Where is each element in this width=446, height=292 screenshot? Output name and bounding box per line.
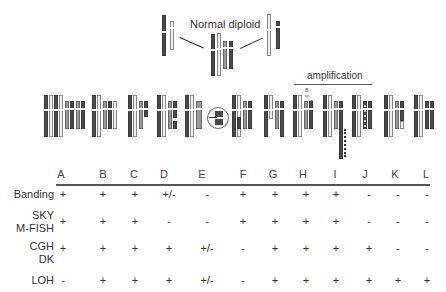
cell: + bbox=[231, 188, 255, 200]
cell: + bbox=[157, 274, 181, 286]
diagram-title: Normal diploid bbox=[190, 18, 260, 30]
cell: + bbox=[294, 215, 318, 227]
column-header-a: A bbox=[51, 168, 71, 180]
cell: - bbox=[51, 274, 75, 286]
column-header-i: I bbox=[325, 168, 345, 180]
header-rule bbox=[56, 184, 430, 186]
cell: +/- bbox=[157, 188, 181, 200]
cell: + bbox=[294, 188, 318, 200]
cell: +/- bbox=[195, 274, 219, 286]
cell: + bbox=[324, 188, 348, 200]
cell: - bbox=[195, 188, 219, 200]
cell: - bbox=[415, 215, 439, 227]
cell: + bbox=[123, 188, 147, 200]
column-header-e: E bbox=[192, 168, 212, 180]
cell: + bbox=[263, 274, 287, 286]
parental-chromosome-left-dark bbox=[162, 15, 166, 56]
cell: + bbox=[263, 188, 287, 200]
diploid-chromosome-4 bbox=[229, 41, 233, 69]
amplification-bracket bbox=[294, 84, 372, 85]
double-minutes-icon: 8 ∞ 8 bbox=[305, 87, 313, 105]
cell: - bbox=[386, 188, 410, 200]
column-header-f: F bbox=[233, 168, 253, 180]
cell: + bbox=[294, 274, 318, 286]
column-header-h: H bbox=[293, 168, 313, 180]
cell: - bbox=[231, 242, 255, 254]
cell: + bbox=[324, 215, 348, 227]
parental-chromosome-right-dark bbox=[276, 21, 280, 49]
column-header-l: L bbox=[416, 168, 436, 180]
hsr-marks bbox=[344, 129, 347, 157]
arrow-left-icon bbox=[180, 37, 204, 48]
row-label-sky-mfish: SKY M-FISH bbox=[16, 209, 54, 235]
cell: - bbox=[231, 274, 255, 286]
cell: - bbox=[357, 188, 381, 200]
cell: + bbox=[294, 242, 318, 254]
cell: + bbox=[51, 242, 75, 254]
cell: + bbox=[123, 242, 147, 254]
cell: +/- bbox=[195, 242, 219, 254]
diploid-chromosome-2 bbox=[217, 33, 221, 76]
cell: - bbox=[386, 215, 410, 227]
cell: - bbox=[357, 215, 381, 227]
cell: - bbox=[157, 215, 181, 227]
parental-chromosome-right-light bbox=[267, 14, 271, 56]
cell: + bbox=[263, 242, 287, 254]
column-header-g: G bbox=[263, 168, 283, 180]
cell: + bbox=[324, 274, 348, 286]
cell: + bbox=[357, 274, 381, 286]
cell: + bbox=[357, 242, 381, 254]
arrow-right-icon bbox=[240, 37, 263, 48]
cell: + bbox=[91, 215, 115, 227]
cell: + bbox=[123, 274, 147, 286]
cell: + bbox=[91, 242, 115, 254]
diploid-chromosome-3 bbox=[223, 41, 227, 69]
column-header-k: K bbox=[385, 168, 405, 180]
cell: - bbox=[415, 242, 439, 254]
amplification-label: amplification bbox=[307, 70, 363, 81]
cell: + bbox=[51, 188, 75, 200]
cell: + bbox=[157, 242, 181, 254]
cell: + bbox=[231, 215, 255, 227]
row-label-banding: Banding bbox=[14, 188, 54, 201]
column-header-b: B bbox=[93, 168, 113, 180]
cell: - bbox=[415, 188, 439, 200]
zoom-circle-icon bbox=[207, 107, 229, 129]
column-header-j: J bbox=[355, 168, 375, 180]
cell: + bbox=[415, 274, 439, 286]
diploid-chromosome-1 bbox=[211, 34, 215, 76]
cell: + bbox=[123, 215, 147, 227]
cell: + bbox=[386, 274, 410, 286]
cell: + bbox=[91, 274, 115, 286]
cell: + bbox=[51, 215, 75, 227]
column-header-d: D bbox=[154, 168, 174, 180]
cell: - bbox=[386, 242, 410, 254]
column-header-c: C bbox=[124, 168, 144, 180]
cell: + bbox=[91, 188, 115, 200]
cell: + bbox=[324, 242, 348, 254]
cell: + bbox=[263, 215, 287, 227]
cell: - bbox=[195, 215, 219, 227]
parental-chromosome-left-light bbox=[170, 21, 174, 50]
